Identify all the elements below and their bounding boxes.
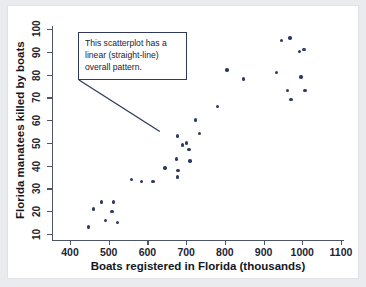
y-axis-line	[52, 26, 53, 240]
x-tick	[341, 240, 342, 245]
data-point	[298, 50, 301, 53]
data-point	[100, 200, 103, 203]
x-tick-label: 1100	[321, 246, 361, 258]
data-point	[92, 207, 95, 210]
y-tick-label: 50	[32, 131, 42, 155]
x-tick	[147, 240, 148, 245]
y-tick-label: 70	[32, 85, 42, 109]
y-tick-label: 40	[32, 154, 42, 178]
x-tick-label: 1000	[282, 246, 322, 258]
figure-panel: Florida manatees killed by boats Boats r…	[8, 6, 358, 278]
data-point	[275, 71, 278, 74]
x-tick-label: 500	[89, 246, 129, 258]
data-point	[302, 48, 305, 51]
x-tick-label: 400	[50, 246, 90, 258]
data-point	[163, 166, 166, 169]
data-point	[194, 118, 197, 121]
data-point	[181, 143, 184, 146]
data-point	[225, 68, 228, 71]
data-point	[176, 134, 179, 137]
data-point	[110, 210, 113, 213]
x-tick-label: 600	[127, 246, 167, 258]
data-point	[87, 225, 90, 228]
data-point	[188, 159, 191, 162]
data-point	[104, 219, 107, 222]
x-tick	[302, 240, 303, 245]
x-tick	[70, 240, 71, 245]
y-tick	[47, 120, 52, 121]
data-point	[176, 169, 179, 172]
data-point	[130, 178, 133, 181]
data-point	[289, 98, 292, 101]
y-tick-label: 80	[32, 63, 42, 87]
data-point	[280, 39, 283, 42]
data-point	[187, 148, 190, 151]
data-point	[176, 175, 179, 178]
scatterplot: Florida manatees killed by boats Boats r…	[8, 6, 358, 278]
data-point	[198, 132, 201, 135]
x-tick	[225, 240, 226, 245]
annotation-callout: This scatterplot has a linear (straight-…	[78, 32, 187, 80]
y-tick-label: 60	[32, 108, 42, 132]
y-tick	[47, 188, 52, 189]
y-axis-title: Florida manatees killed by boats	[14, 24, 26, 236]
data-point	[140, 180, 143, 183]
data-point	[288, 36, 291, 39]
data-point	[303, 89, 306, 92]
y-tick-label: 100	[32, 17, 42, 41]
y-tick	[47, 211, 52, 212]
data-point	[151, 180, 154, 183]
y-tick-label: 30	[32, 176, 42, 200]
x-tick	[264, 240, 265, 245]
data-point	[286, 89, 289, 92]
y-tick	[47, 75, 52, 76]
x-axis-title: Boats registered in Florida (thousands)	[52, 260, 344, 272]
x-tick	[186, 240, 187, 245]
data-point	[216, 105, 219, 108]
x-tick	[109, 240, 110, 245]
y-tick	[47, 52, 52, 53]
x-tick-label: 800	[205, 246, 245, 258]
data-point	[112, 200, 115, 203]
y-tick	[47, 97, 52, 98]
y-tick	[47, 29, 52, 30]
y-tick-label: 20	[32, 199, 42, 223]
data-point	[116, 221, 119, 224]
x-tick-label: 900	[244, 246, 284, 258]
data-point	[175, 157, 178, 160]
x-axis-line	[52, 240, 344, 241]
y-tick	[47, 166, 52, 167]
x-tick-label: 700	[166, 246, 206, 258]
data-point	[185, 141, 188, 144]
data-point	[242, 77, 245, 80]
data-point	[299, 75, 302, 78]
y-tick	[47, 234, 52, 235]
y-tick-label: 90	[32, 40, 42, 64]
y-tick	[47, 143, 52, 144]
y-tick-label: 10	[32, 222, 42, 246]
